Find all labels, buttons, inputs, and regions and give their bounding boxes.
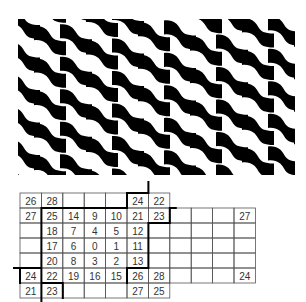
grid-cell-value: 2: [114, 256, 120, 267]
grid-cell: [170, 208, 191, 223]
grid-cell-value: 20: [47, 256, 59, 267]
grid-cell-value: 17: [47, 241, 59, 252]
grid-cell: [84, 283, 105, 298]
grid-cell-value: 4: [92, 226, 98, 237]
grid-cell-value: 28: [154, 271, 166, 282]
grid-cell: [191, 253, 212, 268]
grid-cell: [106, 193, 127, 208]
grid-cell: [148, 253, 169, 268]
grid-cell: [170, 268, 191, 283]
grid-cell: [213, 208, 234, 223]
grid-cell-value: 11: [133, 241, 144, 252]
grid-cell: [191, 223, 212, 238]
grid-cell-value: 25: [154, 286, 166, 297]
grid-cell: [191, 238, 212, 253]
grid-cell: [148, 223, 169, 238]
grid-cell-value: 26: [132, 271, 144, 282]
grid-cell: [20, 223, 41, 238]
grid-cell: [191, 268, 212, 283]
grid-cell: [63, 283, 84, 298]
grid-cell-value: 21: [132, 211, 144, 222]
grid-cell-value: 12: [132, 226, 144, 237]
grid-cell-value: 6: [71, 241, 77, 252]
grid-cell: [234, 253, 255, 268]
grid-cell-value: 27: [132, 286, 144, 297]
grid-cell-value: 3: [92, 256, 98, 267]
grid-cell-values: 2628242227251491021232718745121760111208…: [25, 196, 251, 297]
grid-cell: [20, 253, 41, 268]
numbered-grid: 2628242227251491021232718745121760111208…: [0, 0, 306, 302]
grid-cell-value: 13: [132, 256, 144, 267]
grid-cell-value: 5: [114, 226, 120, 237]
grid-cell: [170, 238, 191, 253]
grid-cell-value: 14: [68, 211, 80, 222]
grid-cell-value: 15: [111, 271, 123, 282]
grid-cell: [63, 193, 84, 208]
grid-cell: [234, 223, 255, 238]
grid-cell-value: 24: [25, 271, 37, 282]
grid-cell-value: 23: [47, 286, 59, 297]
grid-cell-value: 9: [92, 211, 98, 222]
grid-cell: [170, 253, 191, 268]
grid-cell-value: 18: [47, 226, 59, 237]
grid-cell-value: 22: [47, 271, 59, 282]
grid-cell-value: 24: [239, 271, 251, 282]
grid-cell: [213, 223, 234, 238]
grid-cell: [213, 238, 234, 253]
grid-cell: [170, 223, 191, 238]
grid-cell-value: 16: [89, 271, 101, 282]
grid-cell: [148, 238, 169, 253]
grid-cell-value: 21: [25, 286, 37, 297]
grid-cell: [213, 268, 234, 283]
grid-cell-value: 28: [47, 196, 59, 207]
grid-cell-value: 27: [25, 211, 37, 222]
grid-cell-value: 0: [92, 241, 98, 252]
grid-cell-value: 25: [47, 211, 59, 222]
grid-cell-value: 26: [25, 196, 37, 207]
grid-cell: [191, 208, 212, 223]
grid-cell: [106, 283, 127, 298]
grid-cell: [20, 238, 41, 253]
grid-cell-value: 19: [68, 271, 80, 282]
grid-cell: [84, 193, 105, 208]
grid-cell: [234, 238, 255, 253]
grid-cell-value: 24: [132, 196, 144, 207]
grid-cell-value: 8: [71, 256, 77, 267]
grid-cell-value: 22: [154, 196, 166, 207]
grid-cell-value: 27: [239, 211, 251, 222]
grid-cell-value: 23: [154, 211, 166, 222]
grid-cell-value: 10: [111, 211, 123, 222]
grid-cell-value: 1: [114, 241, 120, 252]
grid-cell-value: 7: [71, 226, 77, 237]
grid-cell: [213, 253, 234, 268]
